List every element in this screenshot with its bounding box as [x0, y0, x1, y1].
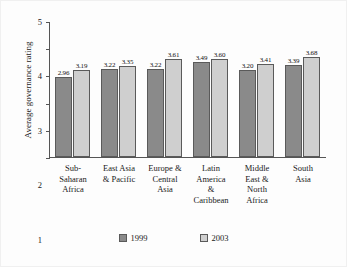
x-category-label-line: South	[276, 163, 330, 174]
bar-chart-figure: Average governance rating 543210 2.963.1…	[0, 0, 347, 267]
bar-2003-2[interactable]: 3.61	[165, 59, 182, 157]
bar-group: 3.203.41	[239, 22, 275, 157]
x-category-label-line: Africa	[46, 184, 100, 195]
legend-swatch-icon	[200, 234, 208, 242]
bar-value-label: 3.20	[242, 62, 253, 70]
x-category-label-5: SouthAsia	[276, 163, 330, 184]
bar-2003-4[interactable]: 3.41	[257, 64, 274, 157]
bar-group: 2.963.19	[55, 22, 91, 157]
legend-swatch-icon	[119, 234, 127, 242]
y-axis-title: Average governance rating	[21, 22, 35, 158]
bar-2003-0[interactable]: 3.19	[73, 70, 90, 157]
bar-2003-5[interactable]: 3.68	[303, 57, 320, 157]
bar-1999-4[interactable]: 3.20	[239, 70, 256, 157]
bar-value-label: 2.96	[58, 69, 69, 77]
bar-value-label: 3.19	[76, 62, 87, 70]
legend-item-1999[interactable]: 1999	[119, 233, 148, 243]
y-axis-line	[49, 22, 50, 158]
bar-value-label: 3.49	[196, 54, 207, 62]
bar-value-label: 3.60	[214, 51, 225, 59]
bar-value-label: 3.22	[150, 61, 161, 69]
x-category-label-line: Asia	[276, 174, 330, 185]
bar-1999-1[interactable]: 3.22	[101, 69, 118, 157]
y-tick-mark: 0	[46, 158, 50, 159]
y-axis-title-text: Average governance rating	[23, 42, 33, 139]
bar-value-label: 3.68	[306, 49, 317, 57]
bar-group: 3.223.61	[147, 22, 183, 157]
y-tick-label: 2	[38, 180, 42, 190]
bar-1999-3[interactable]: 3.49	[193, 62, 210, 157]
chart-legend: 19992003	[1, 233, 346, 243]
bar-2003-3[interactable]: 3.60	[211, 59, 228, 157]
y-tick-mark: 4	[46, 49, 50, 50]
bar-value-label: 3.22	[104, 61, 115, 69]
bar-value-label: 3.41	[260, 56, 271, 64]
legend-label: 2003	[212, 233, 229, 243]
y-tick-mark: 5	[46, 22, 50, 23]
y-tick-label: 3	[38, 126, 42, 136]
bar-value-label: 3.39	[288, 57, 299, 65]
plot-area: 543210 2.963.193.223.353.223.613.493.603…	[49, 22, 326, 158]
y-tick-mark: 1	[46, 131, 50, 132]
x-axis-line	[49, 157, 326, 158]
y-tick-mark: 2	[46, 104, 50, 105]
bar-group: 3.223.35	[101, 22, 137, 157]
x-category-label-line: North	[230, 184, 284, 195]
y-tick-label: 5	[38, 17, 42, 27]
bar-1999-5[interactable]: 3.39	[285, 65, 302, 157]
bar-group: 3.493.60	[193, 22, 229, 157]
legend-label: 1999	[131, 233, 148, 243]
bar-value-label: 3.35	[122, 58, 133, 66]
y-tick-label: 4	[38, 71, 42, 81]
x-category-label-line: Africa	[230, 195, 284, 206]
bar-group: 3.393.68	[285, 22, 321, 157]
bar-1999-2[interactable]: 3.22	[147, 69, 164, 157]
legend-item-2003[interactable]: 2003	[200, 233, 229, 243]
bar-2003-1[interactable]: 3.35	[119, 66, 136, 157]
bar-1999-0[interactable]: 2.96	[55, 77, 72, 158]
bar-value-label: 3.61	[168, 51, 179, 59]
y-tick-mark: 3	[46, 76, 50, 77]
